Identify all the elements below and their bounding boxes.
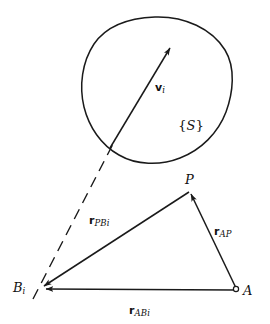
point-bi-subscript: i: [23, 286, 26, 296]
frame-close-brace: }: [196, 117, 205, 133]
frame-open-brace: {: [178, 117, 187, 133]
frame-symbol: S: [187, 118, 196, 133]
point-p-label: P: [185, 171, 194, 187]
r-pbi-subscript: PBi: [94, 218, 109, 228]
r-abi-vector-arrow: [46, 289, 234, 290]
r-abi-subscript: ABi: [134, 308, 150, 318]
point-a-marker: [233, 286, 238, 291]
point-a-symbol: A: [243, 283, 252, 298]
velocity-vector-label: vi: [155, 78, 165, 95]
point-bi-label: Bi: [13, 279, 25, 296]
point-p-symbol: P: [185, 172, 194, 187]
r-ap-subscript: AP: [219, 229, 231, 239]
r-ap-label: rAP: [214, 222, 232, 239]
r-pbi-vector-arrow: [44, 192, 189, 286]
frame-label-s: {S}: [178, 117, 204, 133]
diagram-canvas: [0, 0, 270, 324]
r-pbi-label: rPBi: [89, 211, 110, 228]
r-abi-label: rABi: [129, 301, 150, 318]
velocity-vector-arrow: [110, 48, 170, 148]
point-a-label: A: [243, 282, 252, 298]
point-bi-symbol: B: [13, 280, 23, 295]
kinematics-diagram: {S} vi rPBi rAP rABi P Bi A: [0, 0, 270, 324]
r-ap-vector-arrow: [191, 194, 236, 288]
velocity-subscript: i: [162, 85, 165, 95]
